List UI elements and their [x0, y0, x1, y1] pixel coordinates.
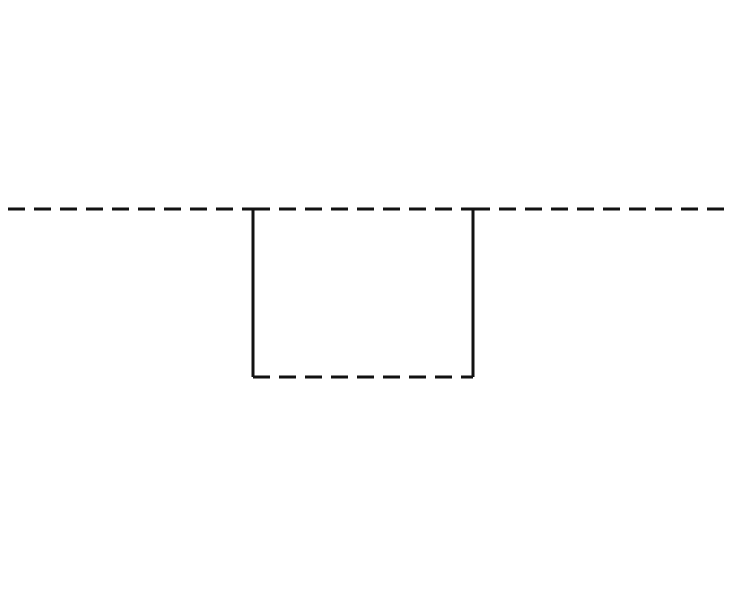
- diagram-background: [0, 0, 737, 597]
- notch-diagram: [0, 0, 737, 597]
